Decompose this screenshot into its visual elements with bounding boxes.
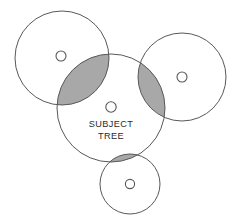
subject-label-line-2: TREE [98, 131, 124, 141]
diagram-canvas: SUBJECT TREE [0, 0, 240, 218]
circle-outlines-group [15, 11, 226, 214]
subject-label-line-1: SUBJECT [89, 119, 133, 129]
subject-tree-circle [57, 54, 165, 162]
overlap-diagram-svg: SUBJECT TREE [0, 0, 240, 218]
neighbor-circle-bottom [100, 154, 160, 214]
